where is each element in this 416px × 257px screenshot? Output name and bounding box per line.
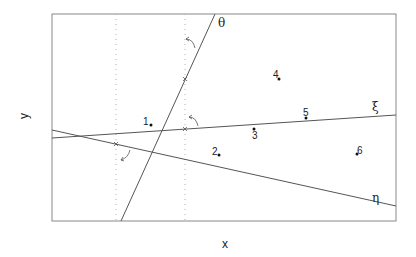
y-axis-label: y — [17, 113, 31, 119]
rotation-arrow-theta — [186, 37, 195, 48]
point-label-3: 3 — [252, 130, 258, 141]
rotation-arrow-xi — [189, 115, 198, 126]
point-label-4: 4 — [273, 69, 279, 80]
line-eta — [52, 130, 396, 206]
line-xi — [52, 115, 396, 138]
point-2 — [218, 154, 221, 157]
label-xi: ξ — [372, 100, 379, 114]
rotation-arrows — [121, 37, 198, 161]
label-theta: θ — [218, 16, 225, 30]
rotation-arrow-eta — [121, 150, 130, 161]
label-eta: η — [372, 191, 379, 205]
x-axis-label: x — [222, 237, 228, 251]
point-label-5: 5 — [303, 107, 309, 118]
plot-frame — [52, 14, 396, 221]
point-label-2: 2 — [212, 146, 218, 157]
point-label-6: 6 — [357, 145, 363, 156]
cross-markers — [114, 77, 187, 146]
line-theta — [121, 14, 215, 221]
diagram-canvas: θ ξ η 1 2 3 4 5 6 x y — [0, 0, 416, 257]
point-1 — [150, 124, 153, 127]
point-label-1: 1 — [143, 116, 149, 127]
